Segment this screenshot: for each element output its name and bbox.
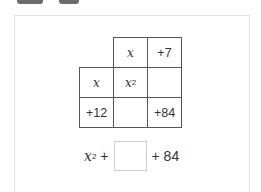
expression-term-x: x (84, 148, 92, 164)
cell-x-exponent: 2 (132, 78, 136, 87)
expression: x2 + + 84 (84, 141, 179, 171)
cell-empty-bottom-left (113, 97, 148, 128)
column-header-plus7: +7 (147, 37, 182, 68)
expression-plus: + (100, 148, 108, 164)
cell-plus84: +84 (147, 97, 182, 128)
cell-x-squared: x2 (113, 67, 148, 98)
cell-empty-top-right (147, 67, 182, 98)
column-header-x: x (113, 37, 148, 68)
toolbar-tab-2[interactable] (59, 0, 79, 4)
row-header-plus12: +12 (79, 97, 114, 128)
answer-input-box[interactable] (114, 141, 147, 171)
row-header-x: x (79, 67, 114, 98)
expression-exponent: 2 (92, 152, 96, 161)
cell-x-base: x (125, 76, 132, 90)
toolbar-tab-1[interactable] (17, 0, 43, 4)
expression-constant: + 84 (152, 148, 180, 164)
